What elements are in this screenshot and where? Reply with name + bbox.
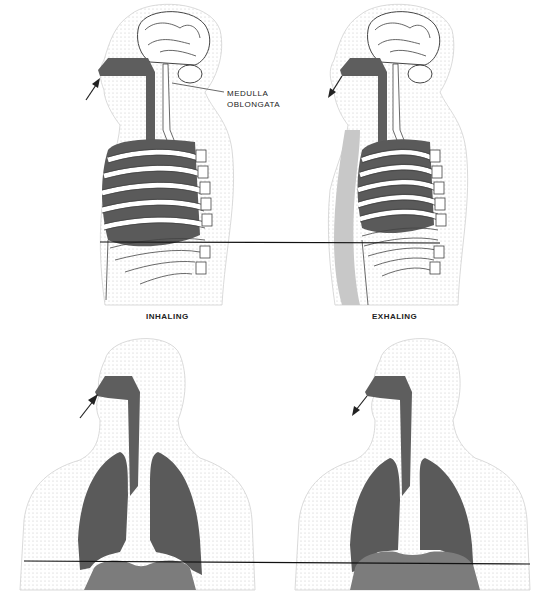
side-view-exhaling — [328, 4, 468, 305]
medulla-label-line2: OBLONGATA — [227, 99, 280, 110]
body-outline — [295, 339, 530, 590]
medulla-oblongata-label: MEDULLA OBLONGATA — [227, 88, 280, 110]
inhale-arrow-icon — [92, 78, 100, 88]
front-view-exhaling — [295, 339, 530, 590]
diaphragm — [350, 552, 480, 590]
front-view-inhaling — [20, 339, 255, 590]
medulla-label-line1: MEDULLA — [227, 88, 280, 99]
exhaling-caption: EXHALING — [372, 312, 417, 321]
side-view-inhaling — [86, 4, 234, 305]
exhale-arrow-icon — [352, 406, 360, 416]
inhaling-caption: INHALING — [146, 312, 189, 321]
